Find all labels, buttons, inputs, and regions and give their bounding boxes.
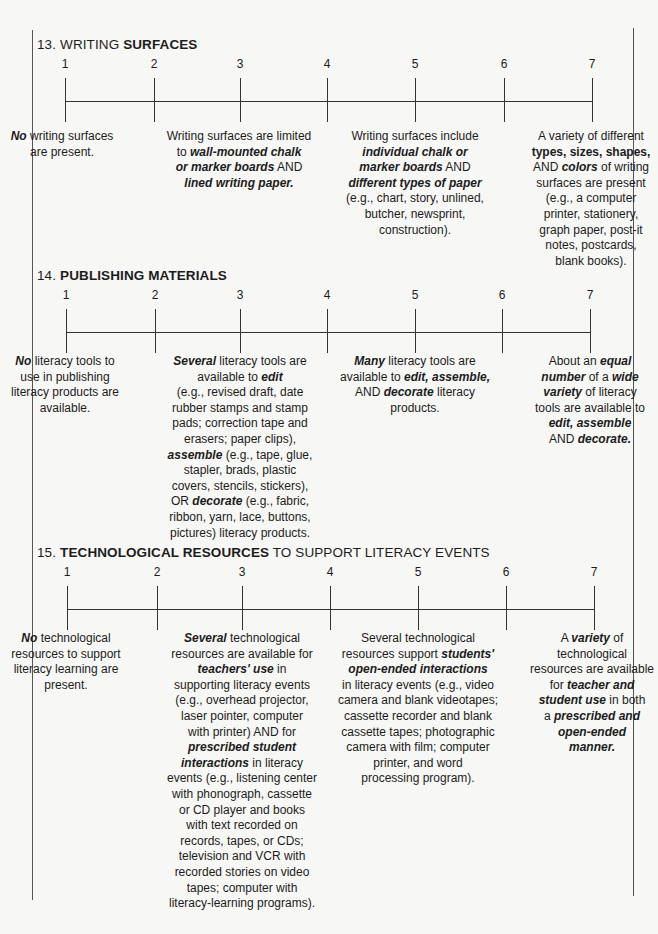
descriptor-level-3: Writing surfaces are limitedto wall-moun… bbox=[167, 129, 312, 191]
scale-tick bbox=[155, 309, 156, 353]
scale-tick bbox=[330, 586, 331, 630]
scale-point-label: 3 bbox=[239, 565, 246, 579]
scale-point-label: 6 bbox=[499, 288, 506, 302]
scale-point-label: 7 bbox=[591, 565, 598, 579]
descriptor-level-7: A variety of differenttypes, sizes, shap… bbox=[532, 129, 651, 269]
descriptor-level-5: Many literacy tools areavailable to edit… bbox=[340, 354, 490, 416]
scale-tick bbox=[66, 309, 67, 353]
scale-tick bbox=[327, 78, 328, 122]
descriptor-level-3: Several technologicalresources are avail… bbox=[167, 631, 317, 912]
scale-point-label: 4 bbox=[324, 57, 331, 71]
scale-point-label: 1 bbox=[62, 57, 69, 71]
heading-text-regular: WRITING bbox=[60, 37, 123, 52]
scale-point-label: 4 bbox=[324, 288, 331, 302]
scale-tick bbox=[65, 78, 66, 122]
scale-line bbox=[65, 101, 592, 102]
scale-tick bbox=[154, 78, 155, 122]
scale-tick bbox=[506, 586, 507, 630]
section-heading: 13.WRITING SURFACES bbox=[37, 37, 197, 52]
rating-scale: 1234567 bbox=[0, 565, 658, 625]
descriptor-level-7: About an equalnumber of a widevariety of… bbox=[535, 354, 645, 448]
scale-point-label: 7 bbox=[589, 57, 596, 71]
scale-tick bbox=[502, 309, 503, 353]
scale-tick bbox=[240, 78, 241, 122]
scale-point-label: 7 bbox=[587, 288, 594, 302]
scale-point-label: 4 bbox=[327, 565, 334, 579]
descriptor-level-5: Writing surfaces includeindividual chalk… bbox=[346, 129, 484, 238]
heading-text-bold: SURFACES bbox=[123, 37, 197, 52]
descriptor-level-1: No literacy tools touse in publishinglit… bbox=[11, 354, 119, 416]
scale-tick bbox=[415, 78, 416, 122]
descriptor-level-3: Several literacy tools areavailable to e… bbox=[168, 354, 313, 541]
descriptor-level-1: No writing surfacesare present. bbox=[11, 129, 114, 160]
scale-line bbox=[66, 332, 590, 333]
scale-point-label: 1 bbox=[63, 288, 70, 302]
scale-tick bbox=[590, 309, 591, 353]
page-border-left bbox=[32, 30, 33, 900]
rating-scale: 1234567 bbox=[0, 57, 658, 117]
scale-point-label: 2 bbox=[152, 288, 159, 302]
scale-tick bbox=[157, 586, 158, 630]
scale-point-label: 3 bbox=[237, 57, 244, 71]
section-heading: 14.PUBLISHING MATERIALS bbox=[37, 268, 227, 283]
heading-text-regular: TO SUPPORT LITERACY EVENTS bbox=[269, 545, 490, 560]
scale-point-label: 6 bbox=[501, 57, 508, 71]
scale-point-label: 2 bbox=[154, 565, 161, 579]
scale-point-label: 6 bbox=[503, 565, 510, 579]
rating-scale: 1234567 bbox=[0, 288, 658, 348]
scale-point-label: 1 bbox=[64, 565, 71, 579]
scale-tick bbox=[242, 586, 243, 630]
heading-text-bold: TECHNOLOGICAL RESOURCES bbox=[60, 545, 269, 560]
section-number: 15. bbox=[37, 545, 56, 560]
descriptor-level-7: A variety oftechnologicalresources are a… bbox=[530, 631, 654, 756]
scale-point-label: 3 bbox=[237, 288, 244, 302]
scale-tick bbox=[240, 309, 241, 353]
scale-tick bbox=[594, 586, 595, 630]
scale-point-label: 5 bbox=[415, 565, 422, 579]
scale-tick bbox=[504, 78, 505, 122]
scale-tick bbox=[327, 309, 328, 353]
scale-tick bbox=[418, 586, 419, 630]
scale-point-label: 5 bbox=[412, 57, 419, 71]
scale-point-label: 2 bbox=[151, 57, 158, 71]
scale-tick bbox=[67, 586, 68, 630]
descriptor-level-5: Several technologicalresources support s… bbox=[338, 631, 498, 787]
section-heading: 15.TECHNOLOGICAL RESOURCES TO SUPPORT LI… bbox=[37, 545, 490, 560]
descriptor-level-1: No technologicalresources to supportlite… bbox=[11, 631, 120, 693]
section-number: 13. bbox=[37, 37, 56, 52]
section-number: 14. bbox=[37, 268, 56, 283]
scale-tick bbox=[592, 78, 593, 122]
heading-text-bold: PUBLISHING MATERIALS bbox=[60, 268, 227, 283]
scale-tick bbox=[415, 309, 416, 353]
scale-point-label: 5 bbox=[412, 288, 419, 302]
